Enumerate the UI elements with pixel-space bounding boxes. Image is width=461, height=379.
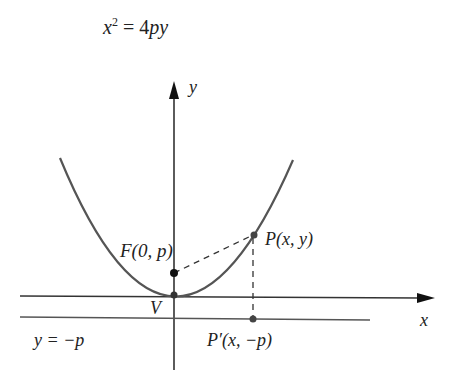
directrix-label: y = −p — [32, 330, 84, 350]
x-axis — [20, 296, 420, 298]
y-axis-arrow-icon — [169, 81, 179, 99]
focus-to-point-segment — [174, 234, 255, 273]
y-axis-label: y — [187, 77, 197, 97]
focus-point — [170, 269, 178, 277]
projection-point — [250, 316, 257, 323]
projection-label: P′(x, −p) — [206, 330, 272, 351]
vertex-label: V — [150, 298, 163, 318]
parabola-diagram: x2 = 4py y x y = −p F(0, p) V P(x, y) P′… — [0, 0, 461, 379]
equation-title: x2 = 4py — [102, 15, 168, 39]
vertex-point — [171, 292, 178, 299]
parabola-point — [251, 232, 258, 239]
directrix-line — [20, 317, 370, 320]
x-axis-arrow-icon — [417, 293, 435, 303]
focus-label: F(0, p) — [119, 240, 173, 262]
x-axis-label: x — [419, 310, 428, 330]
point-label: P(x, y) — [264, 229, 313, 250]
